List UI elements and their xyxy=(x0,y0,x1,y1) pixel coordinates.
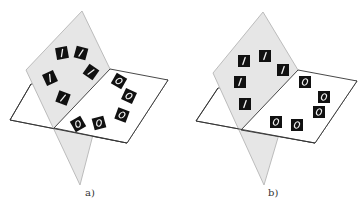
panel-caption: b) xyxy=(268,187,278,198)
panel-b-drawing xyxy=(181,0,362,212)
digit-zero-tile xyxy=(291,119,303,131)
digit-one-tile xyxy=(234,76,246,88)
digit-one-tile xyxy=(277,64,289,76)
panel-caption: a) xyxy=(85,187,95,198)
digit-zero-tile xyxy=(299,76,311,88)
panel-b: b) xyxy=(181,0,362,212)
digit-zero-tile xyxy=(313,106,325,118)
digit-one-tile xyxy=(55,46,69,60)
panel-a-drawing xyxy=(0,0,181,212)
digit-zero-tile xyxy=(270,116,282,128)
digit-zero-tile xyxy=(318,91,330,103)
digit-one-tile xyxy=(238,55,250,67)
digit-one-tile xyxy=(259,50,271,62)
panel-a: a) xyxy=(0,0,181,212)
digit-one-tile xyxy=(239,98,251,110)
